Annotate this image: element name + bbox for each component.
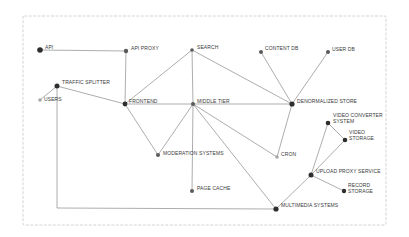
edge-middle-tier-to-multimedia [193, 104, 276, 209]
edge-video-converter-to-video-storage [328, 123, 345, 140]
labels-layer: APIAPI PROXYSEARCHCONTENT DBUSER DBTRAFF… [44, 44, 383, 208]
node-video-storage-icon [343, 138, 348, 143]
node-users-icon [38, 98, 42, 102]
edge-upload-proxy-to-record-storage [311, 175, 344, 191]
edge-api-to-api-proxy [40, 50, 126, 51]
edge-search-to-denormalized-store [192, 50, 292, 104]
edge-middle-tier-to-moderation [158, 104, 193, 155]
node-label-api: API [45, 44, 53, 50]
node-traffic-splitter-icon [55, 84, 60, 89]
node-record-storage-icon [342, 189, 346, 193]
edge-api-proxy-to-frontend [125, 51, 126, 104]
node-label-frontend: FRONTEND [129, 98, 158, 104]
node-label-content-db: CONTENT DB [265, 45, 299, 51]
edge-frontend-to-moderation [125, 104, 158, 155]
edge-middle-tier-to-page-cache [192, 104, 193, 191]
node-multimedia-icon [273, 206, 278, 211]
edge-middle-tier-to-search [192, 50, 193, 104]
node-upload-proxy-icon [309, 173, 314, 178]
node-frontend-icon [123, 102, 128, 107]
node-label-moderation: MODERATION SYSTEMS [163, 150, 224, 156]
node-label-video-converter: VIDEO CONVERTERSYSTEM [333, 112, 383, 124]
node-label-page-cache: PAGE CACHE [197, 185, 231, 191]
node-label-upload-proxy: UPLOAD PROXY SERVICE [316, 168, 381, 174]
edge-traffic-splitter-to-multimedia [57, 86, 276, 209]
edge-traffic-splitter-to-frontend [57, 86, 125, 104]
node-label-denormalized-store: DENORMALIZED STORE [297, 98, 358, 104]
node-label-user-db: USER DB [332, 46, 355, 52]
edge-user-db-to-denormalized-store [292, 52, 328, 104]
node-search-icon [190, 48, 194, 52]
node-middle-tier-icon [191, 102, 195, 106]
node-label-cron: CRON [281, 151, 296, 157]
edge-denormalized-store-to-cron [277, 104, 292, 157]
node-label-record-storage: RECORDSTORAGE [348, 182, 374, 194]
node-label-search: SEARCH [197, 44, 219, 50]
node-cron-icon [275, 155, 279, 159]
node-content-db-icon [259, 50, 263, 54]
node-moderation-icon [156, 153, 160, 157]
architecture-diagram: APIAPI PROXYSEARCHCONTENT DBUSER DBTRAFF… [0, 0, 409, 237]
node-label-users: USERS [44, 96, 62, 102]
node-video-converter-icon [326, 121, 331, 126]
node-label-multimedia: MULTIMEDIA SYSTEMS [281, 202, 339, 208]
node-label-api-proxy: API PROXY [131, 45, 159, 51]
edges-layer [40, 50, 345, 209]
node-label-middle-tier: MIDDLE TIER [197, 98, 230, 104]
node-api-proxy-icon [124, 49, 128, 53]
node-api-icon [37, 47, 43, 53]
node-label-traffic-splitter: TRAFFIC SPLITTER [62, 79, 110, 85]
node-label-video-storage: VIDEOSTORAGE [349, 129, 375, 141]
edge-content-db-to-denormalized-store [261, 52, 292, 104]
node-page-cache-icon [190, 189, 194, 193]
node-denormalized-store-icon [289, 101, 294, 106]
node-user-db-icon [326, 50, 330, 54]
edge-frontend-to-search [125, 50, 192, 104]
